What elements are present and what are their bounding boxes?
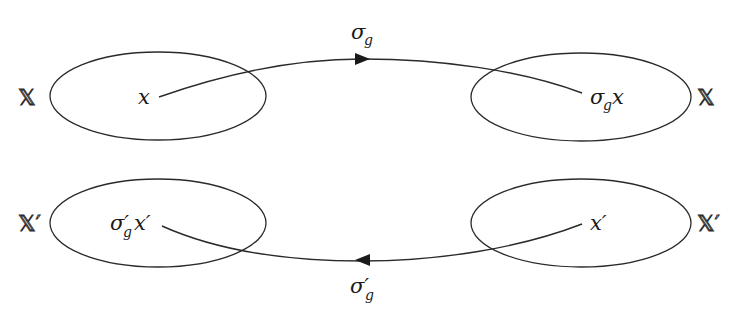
set-x-prime-left-label: 𝕏′ [18,211,41,236]
element-x-prime-suffix: x′ [134,211,151,235]
mapping-diagram: 𝕏 𝕏 x σ g x σ g 𝕏′ 𝕏′ σ′ g x′ x′ σ′ [0,0,740,312]
map-sigma-g-label: σ g [351,20,373,48]
element-x-suffix: x [612,85,624,109]
set-x-right-label: 𝕏 [697,85,715,110]
element-x: x [138,85,150,109]
set-x-right-ellipse [471,53,691,141]
element-sigma-prime-subscript: g [123,224,132,240]
element-sigma-g-x: σ g x [590,85,624,113]
map-sigma-prime-g-curve [162,224,582,261]
map-sigma-g-curve [159,59,582,97]
arrow-left-icon [355,254,370,266]
element-sigma-subscript: g [603,97,612,113]
set-x-prime-left-ellipse [50,179,266,267]
top-row: 𝕏 𝕏 x σ g x σ g [18,20,715,141]
set-x-left-label: 𝕏 [18,85,36,110]
set-x-left-ellipse [50,52,266,140]
svg-text:g: g [364,32,373,48]
map-sigma-prime-g-label: σ′ g [350,274,374,303]
arrow-right-icon [355,53,370,65]
set-x-prime-right-label: 𝕏′ [697,211,720,236]
element-sigma-prime-g-x-prime: σ′ g x′ [110,211,151,240]
element-x-prime: x′ [590,211,607,235]
bottom-row: 𝕏′ 𝕏′ σ′ g x′ x′ σ′ g [18,179,720,303]
svg-text:g: g [365,287,374,303]
set-x-prime-right-ellipse [471,179,691,267]
